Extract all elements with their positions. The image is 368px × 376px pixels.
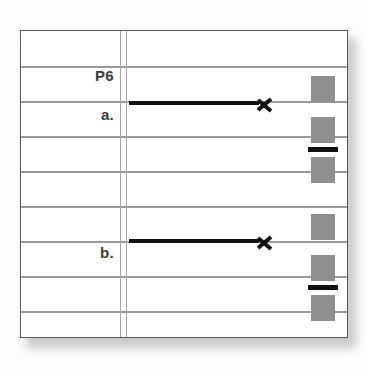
ruled-line — [21, 171, 347, 173]
arrow-head — [257, 94, 275, 112]
arrow-head — [257, 232, 275, 250]
lined-note-card: P6a.b. — [20, 30, 348, 338]
margin-label-p6: P6 — [21, 67, 114, 84]
arrow-shaft — [129, 101, 259, 105]
arrow-shaft — [129, 239, 259, 243]
ruled-line — [21, 206, 347, 208]
ruled-line — [21, 136, 347, 138]
margin-rule — [120, 31, 121, 337]
margin-rule — [126, 31, 127, 337]
ruled-line — [21, 311, 347, 313]
right-arrow-icon — [129, 231, 279, 251]
black-bar — [308, 147, 338, 152]
gray-block — [311, 157, 335, 183]
ruled-line — [21, 276, 347, 278]
gray-block — [311, 295, 335, 321]
gray-block — [311, 255, 335, 281]
margin-label-a: a. — [21, 106, 114, 123]
gray-block — [311, 76, 335, 102]
gray-block — [311, 117, 335, 143]
black-bar — [308, 285, 338, 290]
right-arrow-icon — [129, 93, 279, 113]
page-root: P6a.b. — [0, 0, 368, 376]
margin-label-b: b. — [21, 244, 114, 261]
gray-block — [311, 214, 335, 240]
